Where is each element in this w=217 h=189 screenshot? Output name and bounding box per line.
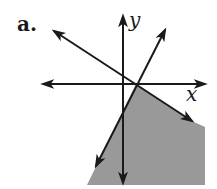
shaded-region [87,84,205,185]
inequality-graph [0,0,217,189]
